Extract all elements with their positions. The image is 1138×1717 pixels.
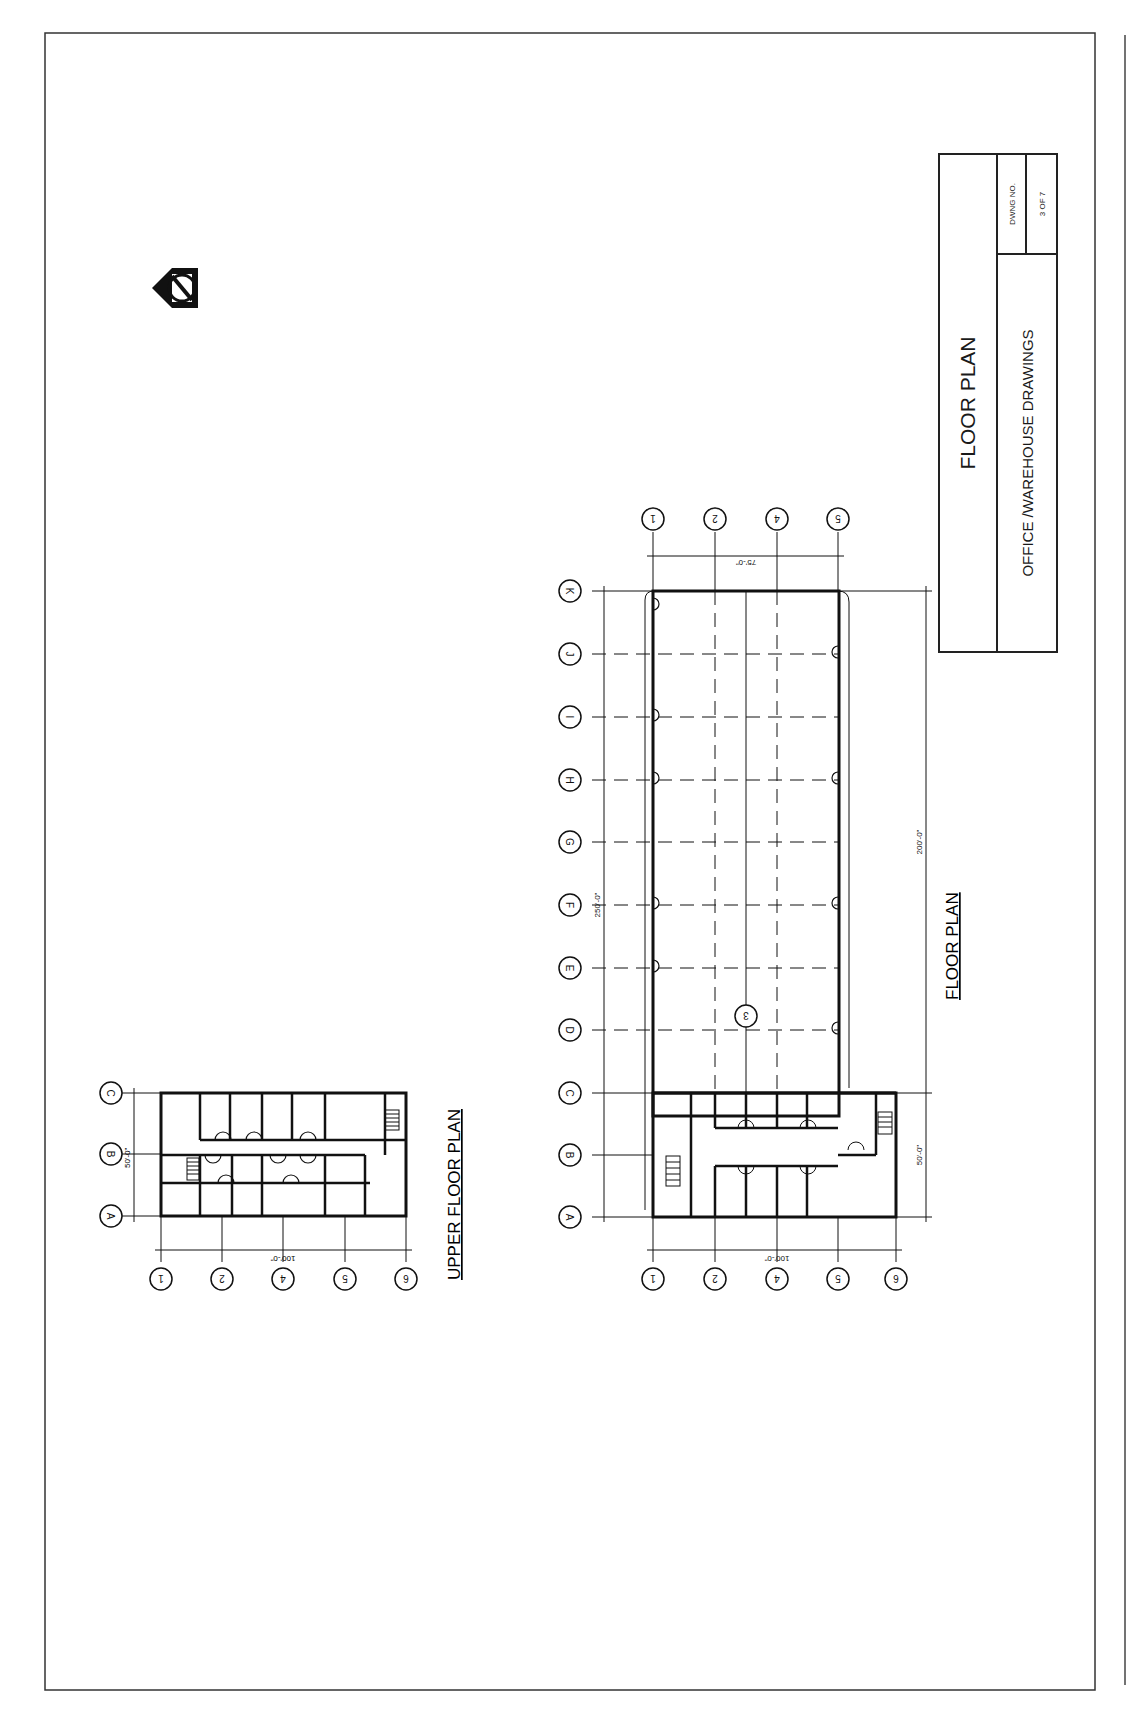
svg-text:5: 5 [835, 1273, 841, 1284]
drawing-number-value: 3 OF 7 [1037, 192, 1046, 216]
grid-bubble: A [100, 1205, 122, 1227]
grid-bubble: A [559, 1206, 581, 1228]
grid-bubble: 5 [827, 508, 849, 530]
grid-bubble: 5 [827, 1268, 849, 1290]
svg-text:K: K [564, 588, 575, 595]
title-block-title-cell: FLOOR PLAN [940, 155, 998, 651]
svg-text:A: A [564, 1214, 575, 1221]
floor-plan-caption: FLOOR PLAN [943, 892, 962, 1000]
upper-plan-column-bubbles: 1 2 4 5 6 [150, 1268, 417, 1290]
svg-text:4: 4 [774, 1273, 780, 1284]
upper-plan-row-bubbles: A B C [100, 1082, 122, 1227]
grid-bubble: C [100, 1082, 122, 1104]
grid-bubble: B [559, 1144, 581, 1166]
svg-text:C: C [105, 1089, 116, 1096]
grid-bubble: 1 [642, 1268, 664, 1290]
svg-text:2: 2 [219, 1273, 225, 1284]
grid-bubble: F [559, 894, 581, 916]
title-block: FLOOR PLAN DWNG NO. 3 OF 7 OFFICE /WAREH… [938, 153, 1058, 653]
svg-text:H: H [564, 776, 575, 783]
title-block-subtitle-cell: OFFICE /WAREHOUSE DRAWINGS [998, 255, 1056, 651]
svg-text:D: D [564, 1026, 575, 1033]
grid-bubble: 6 [885, 1268, 907, 1290]
upper-plan-length-dimension: 100'-0" [270, 1254, 295, 1263]
warehouse-width-dimension: 75'-0" [736, 558, 757, 567]
grid-bubble: I [559, 706, 581, 728]
title-block-title: FLOOR PLAN [956, 336, 980, 469]
grid-bubble: 4 [766, 508, 788, 530]
svg-text:B: B [105, 1151, 116, 1158]
drawing-number-label: DWNG NO. [1007, 183, 1016, 225]
grid-bubble: 6 [395, 1268, 417, 1290]
svg-text:B: B [564, 1152, 575, 1159]
overall-length-dimension: 250'-0" [593, 892, 602, 917]
floor-plan-row-bubbles: A B C D E F G H I J K [559, 580, 581, 1228]
grid-bubble: 1 [150, 1268, 172, 1290]
grid-bubble: 2 [704, 508, 726, 530]
grid-bubble: 1 [642, 508, 664, 530]
svg-text:5: 5 [342, 1273, 348, 1284]
grid-bubble: 4 [766, 1268, 788, 1290]
office-length-dimension: 50'-0" [915, 1145, 924, 1166]
svg-text:5: 5 [835, 513, 841, 524]
svg-text:E: E [564, 965, 575, 972]
drawing-number-cell: DWNG NO. 3 OF 7 [998, 155, 1056, 255]
main-floor-plan [592, 532, 932, 1262]
svg-text:4: 4 [774, 513, 780, 524]
title-block-subtitle: OFFICE /WAREHOUSE DRAWINGS [1019, 329, 1036, 576]
floor-plan-column-bubbles-bottom: 1 2 4 5 6 [642, 1268, 907, 1290]
upper-floor-plan [122, 1088, 412, 1262]
svg-text:F: F [564, 902, 575, 908]
grid-bubble: B [100, 1143, 122, 1165]
svg-text:1: 1 [158, 1273, 164, 1284]
grid-bubble: 2 [704, 1268, 726, 1290]
svg-text:2: 2 [712, 1273, 718, 1284]
svg-text:G: G [564, 838, 575, 846]
svg-text:4: 4 [280, 1273, 286, 1284]
svg-text:J: J [564, 652, 575, 657]
drawing-number-label-cell: DWNG NO. [998, 155, 1027, 253]
grid-bubble: J [559, 643, 581, 665]
svg-text:6: 6 [893, 1273, 899, 1284]
grid-bubble: G [559, 831, 581, 853]
grid-bubble: 4 [272, 1268, 294, 1290]
upper-plan-width-dimension: 50'-0" [123, 1147, 132, 1168]
office-width-dimension: 100'-0" [764, 1254, 789, 1263]
floor-plan-column-bubbles-top: 1 2 4 5 [642, 508, 849, 530]
grid-bubble: 5 [334, 1268, 356, 1290]
grid-bubble: K [559, 580, 581, 602]
grid-bubble: H [559, 769, 581, 791]
grid-bubble: D [559, 1019, 581, 1041]
north-arrow-icon [152, 268, 198, 308]
drawing-number-value-cell: 3 OF 7 [1027, 155, 1056, 253]
svg-text:I: I [564, 716, 575, 719]
svg-text:6: 6 [403, 1273, 409, 1284]
upper-plan-caption: UPPER FLOOR PLAN [445, 1109, 464, 1280]
svg-text:3: 3 [743, 1010, 749, 1021]
grid-bubble-interior: 3 [735, 1005, 757, 1027]
svg-text:1: 1 [650, 513, 656, 524]
grid-bubble: C [559, 1082, 581, 1104]
svg-text:1: 1 [650, 1273, 656, 1284]
svg-text:C: C [564, 1089, 575, 1096]
grid-bubble: E [559, 957, 581, 979]
svg-text:2: 2 [712, 513, 718, 524]
title-block-info-column: DWNG NO. 3 OF 7 OFFICE /WAREHOUSE DRAWIN… [998, 155, 1056, 651]
warehouse-length-dimension: 200'-0" [915, 829, 924, 854]
svg-text:A: A [105, 1213, 116, 1220]
grid-bubble: 2 [211, 1268, 233, 1290]
